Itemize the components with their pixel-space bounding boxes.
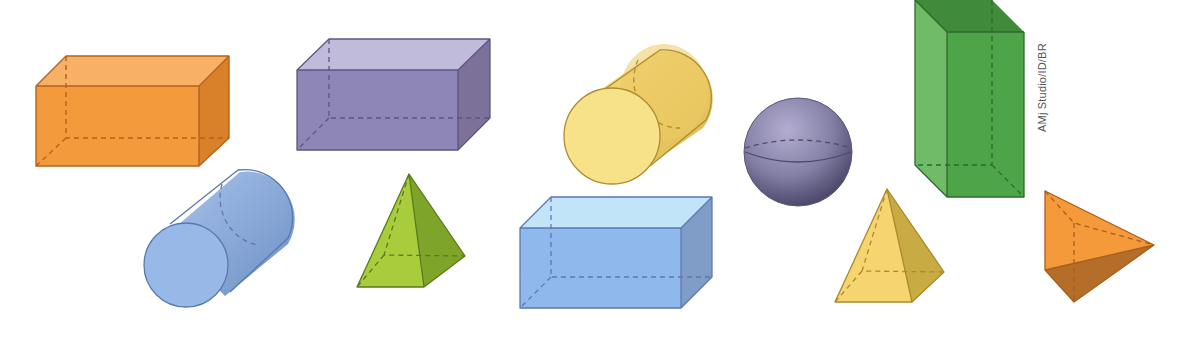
green-tall-box-shape (915, 0, 1024, 197)
blue-cylinder-shape (144, 170, 295, 307)
orange-tetrahedron-shape (1045, 191, 1154, 302)
purple-sphere-shape (744, 98, 852, 206)
orange-box-shape (36, 56, 229, 166)
purple-box-shape (297, 39, 490, 150)
green-pyramid-shape (357, 174, 465, 287)
geometric-solids-illustration (0, 0, 1185, 338)
yellow-cylinder-shape (564, 44, 713, 184)
image-credit: AMj Studio/ID/BR (1036, 43, 1048, 132)
yellow-pyramid-shape (835, 189, 944, 302)
blue-box-shape (520, 197, 712, 308)
